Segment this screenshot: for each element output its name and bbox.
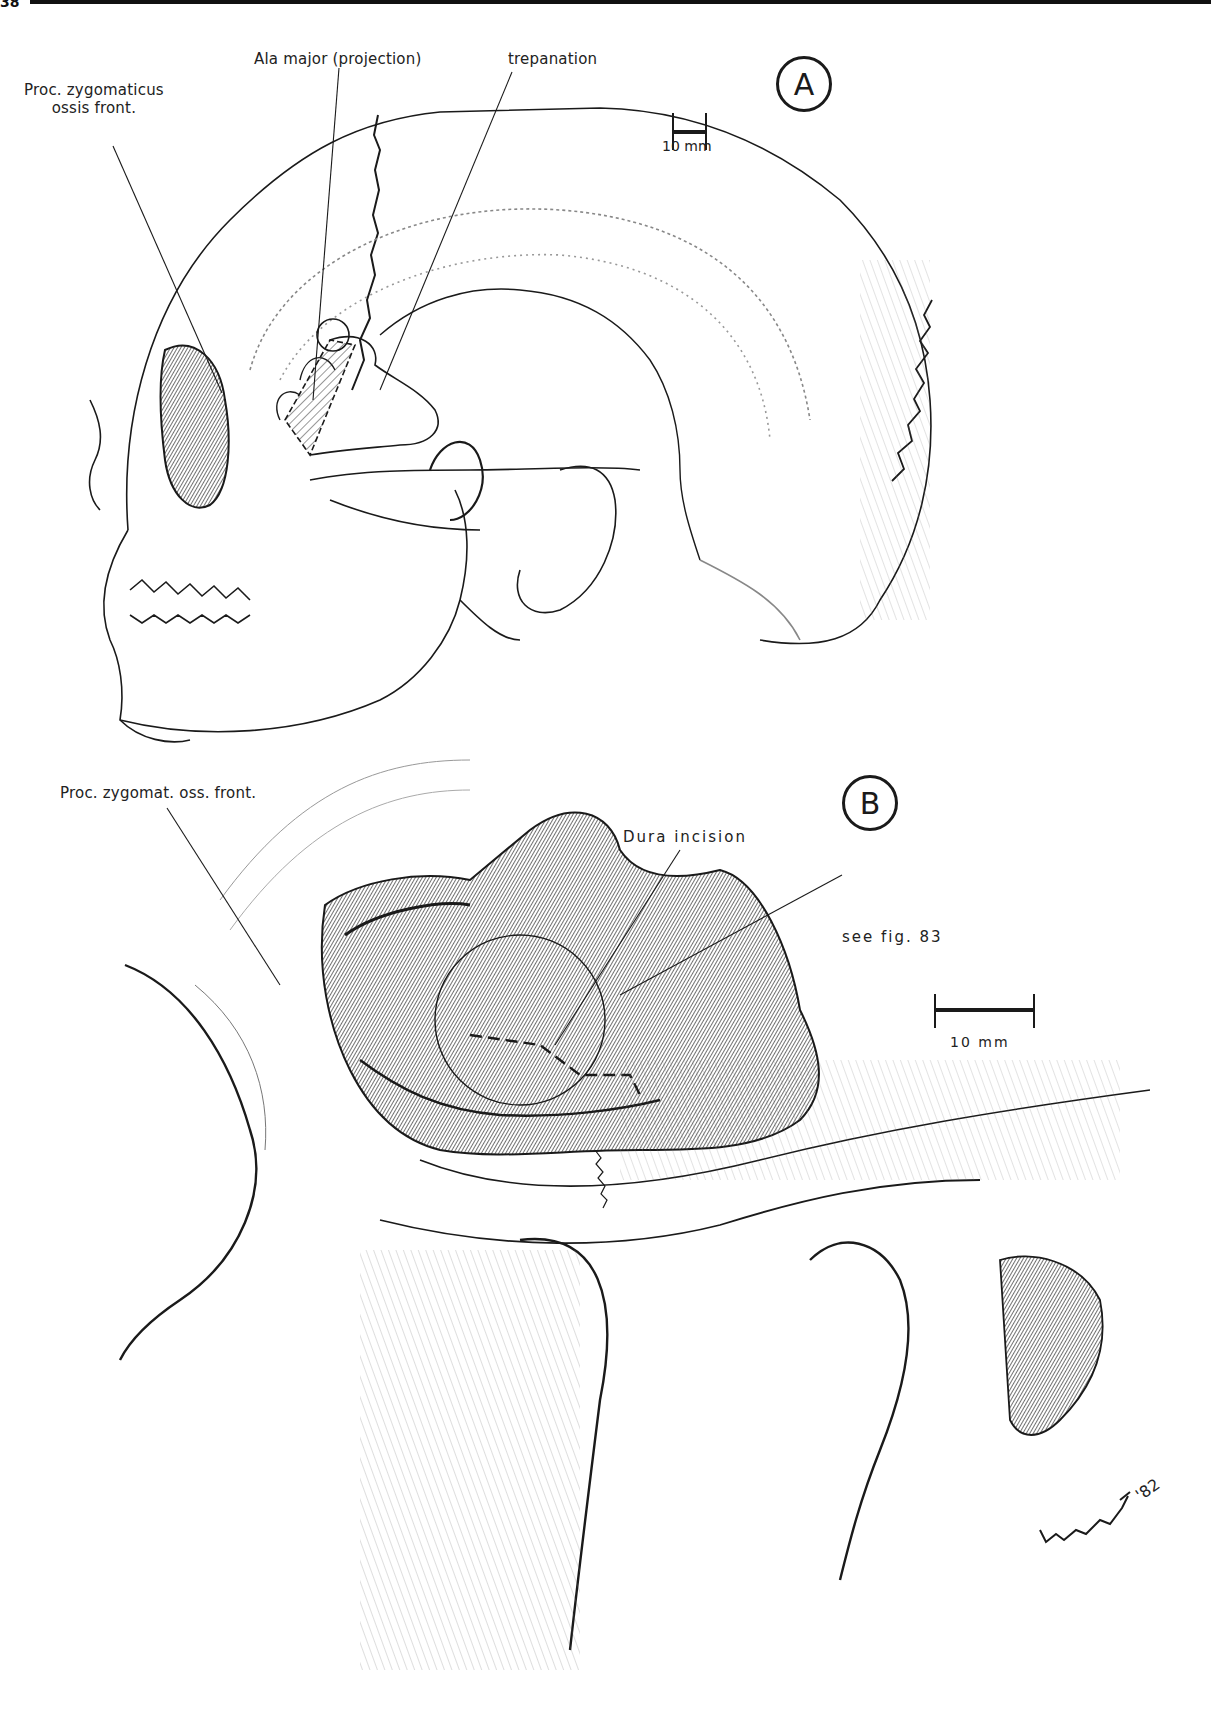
panel-b-badge: B <box>842 775 898 831</box>
panel-b-scale-bar <box>935 994 1034 1028</box>
label-see-fig-83: see fig. 83 <box>842 928 943 946</box>
panel-b-scale-label: 10 mm <box>950 1034 1010 1050</box>
label-dura-incision: Dura incision <box>623 828 747 846</box>
label-proc-zygomat: Proc. zygomat. oss. front. <box>60 784 256 802</box>
panel-b-operative-view <box>120 760 1150 1670</box>
panel-a-skull <box>90 108 932 742</box>
artist-signature <box>1040 1492 1130 1542</box>
label-ala-major: Ala major (projection) <box>254 50 422 68</box>
label-proc-zygomaticus: Proc. zygomaticus ossis front. <box>24 81 164 117</box>
panel-a-scale-label: 10 mm <box>662 138 712 154</box>
anatomical-illustration <box>0 0 1211 1730</box>
label-proc-zygomaticus-line2: ossis front. <box>24 99 164 117</box>
panel-a-badge: A <box>776 56 832 112</box>
label-proc-zygomaticus-line1: Proc. zygomaticus <box>24 81 164 99</box>
label-trepanation: trepanation <box>508 50 597 68</box>
